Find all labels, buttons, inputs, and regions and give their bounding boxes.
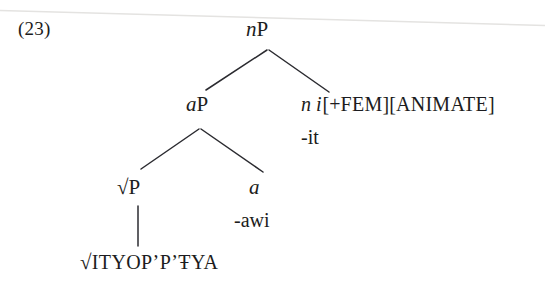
radical-sign-rootp: √ — [117, 175, 129, 199]
np-label-roman: P — [257, 17, 269, 41]
example-number: (23) — [18, 18, 50, 39]
feature-bracket-open-2: [ — [389, 93, 396, 115]
syntax-tree-figure: (23) nP aP n i[+FEM][ANIMATE] -it √P a -… — [0, 0, 545, 295]
tree-node-n-features: n i[+FEM][ANIMATE] — [301, 93, 495, 115]
tree-node-rootp: √P — [117, 176, 140, 200]
feature-fem: FEM — [341, 93, 383, 115]
feature-plus-sign: + — [329, 93, 340, 115]
exponent-it: -it — [301, 126, 319, 148]
root-terminal-label: ITYOP’P’ŦYA — [92, 251, 219, 273]
branch-np-to-ap — [206, 50, 267, 90]
rootp-label-roman: P — [129, 175, 141, 199]
exponent-awi: -awi — [234, 209, 270, 231]
a-head-label-italic: a — [249, 175, 260, 199]
branch-ap-to-rootp — [141, 129, 199, 169]
np-label-italic: n — [246, 17, 257, 41]
tree-node-root-terminal: √ITYOP’P’ŦYA — [80, 251, 218, 275]
feature-bracket-close-2: ] — [488, 93, 495, 115]
ap-label-roman: P — [197, 92, 209, 116]
tree-node-np: nP — [246, 18, 268, 42]
tree-node-a-head: a — [249, 176, 260, 200]
branch-np-to-n — [269, 50, 329, 92]
branch-ap-to-a — [201, 129, 263, 172]
feature-animate: ANIMATE — [396, 93, 488, 115]
tree-node-ap: aP — [186, 93, 208, 117]
page-scan-artifact-line — [0, 0, 545, 40]
radical-sign-terminal: √ — [80, 250, 92, 274]
ap-label-italic: a — [186, 92, 197, 116]
n-head-italic: n i — [301, 93, 323, 115]
